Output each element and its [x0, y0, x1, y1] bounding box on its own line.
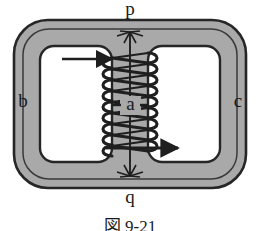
- label-q: q: [125, 186, 135, 207]
- core-window-left: [40, 46, 112, 162]
- figure-container: a p q b c 図 9-21: [0, 0, 260, 231]
- figure-caption: 図 9-21: [104, 217, 156, 231]
- label-p: p: [125, 0, 135, 19]
- core-window-right: [148, 46, 220, 162]
- label-a: a: [126, 93, 135, 114]
- label-b: b: [18, 90, 28, 111]
- label-c: c: [234, 90, 242, 111]
- magnetic-core-diagram: a p q b c 図 9-21: [0, 0, 260, 231]
